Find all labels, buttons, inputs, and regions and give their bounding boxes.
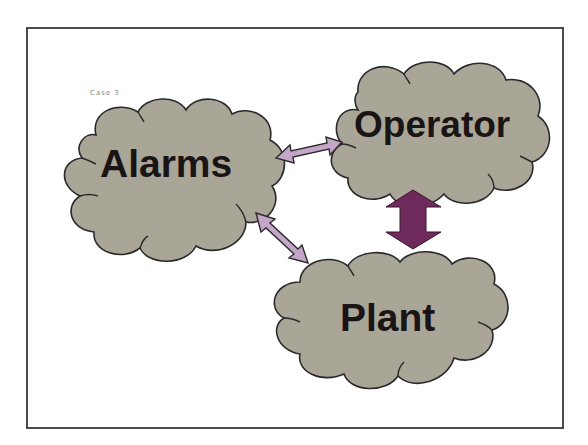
node-label-alarms: Alarms [100, 142, 232, 186]
node-label-operator: Operator [354, 104, 510, 146]
node-label-plant: Plant [340, 296, 435, 340]
case-label: Case 3 [90, 89, 120, 97]
diagram-canvas [0, 0, 588, 445]
arrow-alarms-plant [256, 213, 308, 263]
